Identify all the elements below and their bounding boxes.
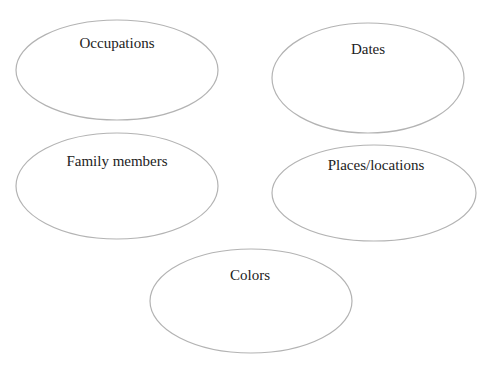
bubble-dates: Dates [272,23,464,133]
bubble-label: Places/locations [328,157,425,173]
bubble-occupations: Occupations [16,20,218,120]
bubble-label: Colors [230,267,270,283]
bubble-label: Occupations [80,35,155,51]
bubble-shape [272,23,464,133]
bubble-shape [16,133,218,239]
bubble-shape [150,249,352,353]
graphic-organizer: Occupations Dates Family members Places/… [0,0,488,369]
bubble-colors: Colors [150,249,352,353]
bubble-places-locations: Places/locations [272,145,476,241]
bubble-label: Dates [351,41,385,57]
bubble-label: Family members [66,153,167,169]
bubble-family-members: Family members [16,133,218,239]
